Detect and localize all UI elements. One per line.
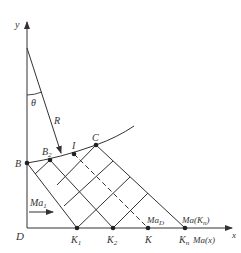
y-axis-label: y <box>14 19 20 30</box>
point-k <box>146 226 151 231</box>
theta-arc <box>27 92 42 95</box>
nozzle-characteristics-diagram: y x D θ R B B2 I C K1 K2 K Kn Ma1 MaD Ma… <box>0 0 241 253</box>
point-b <box>25 161 30 166</box>
point-kn <box>183 226 188 231</box>
label-k2: K2 <box>106 234 118 247</box>
mach-kn-label: Ma(Kn) <box>181 215 210 227</box>
point-i <box>72 152 77 157</box>
point-k1 <box>75 226 80 231</box>
label-b2: B2 <box>42 146 52 159</box>
origin-label: D <box>15 230 24 242</box>
point-c <box>94 143 99 148</box>
radius-label: R <box>53 115 60 126</box>
label-c: C <box>92 132 99 143</box>
label-k1: K1 <box>70 234 81 247</box>
x-axis-label: x <box>231 230 236 240</box>
boundary-c-kn <box>96 145 185 228</box>
label-k: K <box>144 234 153 245</box>
dashed-i-k <box>74 154 148 228</box>
label-i: I <box>71 140 76 151</box>
wall-contour <box>27 126 134 163</box>
inflow-mach-label: Ma1 <box>29 197 47 210</box>
mach-x-label: Ma(x) <box>192 235 215 245</box>
mach-d-label: MaD <box>146 215 164 227</box>
theta-label: θ <box>31 97 36 108</box>
label-b: B <box>15 158 21 169</box>
point-k2 <box>111 226 116 231</box>
label-kn: Kn <box>178 234 190 247</box>
characteristic <box>35 160 50 174</box>
